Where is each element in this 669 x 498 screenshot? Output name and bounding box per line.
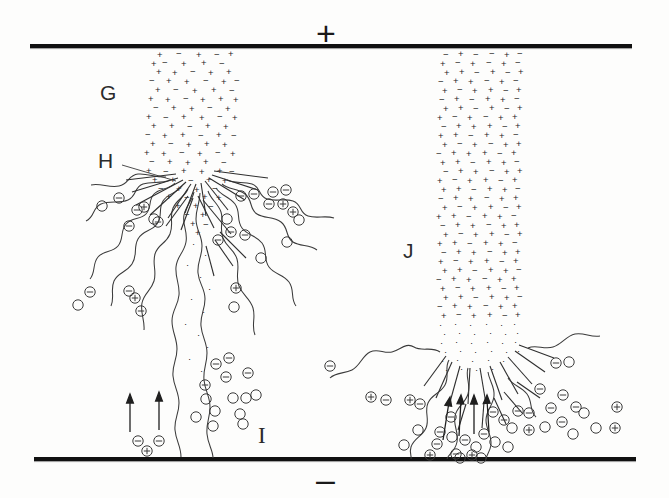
svg-text:·: · xyxy=(485,318,488,329)
svg-text:−: − xyxy=(473,292,479,303)
svg-text:·: · xyxy=(456,354,459,365)
svg-text:+: + xyxy=(233,94,239,105)
svg-text:−: − xyxy=(190,66,196,77)
svg-text:−: − xyxy=(187,121,193,132)
svg-text:·: · xyxy=(504,328,507,339)
svg-text:+: + xyxy=(189,103,195,114)
svg-text:−: − xyxy=(517,291,523,302)
svg-text:+: + xyxy=(201,57,207,68)
svg-text:+: + xyxy=(458,291,464,302)
svg-text:−: − xyxy=(504,103,510,114)
svg-text:+: + xyxy=(230,148,236,159)
svg-text:+: + xyxy=(459,66,465,77)
svg-text:·: · xyxy=(186,259,189,270)
svg-text:+: + xyxy=(184,76,190,87)
svg-text:+: + xyxy=(489,102,495,113)
svg-text:−: − xyxy=(203,75,209,86)
svg-text:·: · xyxy=(208,283,211,294)
svg-text:·: · xyxy=(490,345,493,356)
svg-text:−: − xyxy=(443,166,449,177)
svg-text:−: − xyxy=(473,103,479,114)
svg-text:+: + xyxy=(205,120,211,131)
label-g: G xyxy=(100,82,117,103)
svg-text:·: · xyxy=(469,319,472,330)
svg-text:−: − xyxy=(168,138,174,149)
svg-text:−: − xyxy=(173,84,179,95)
svg-text:+: + xyxy=(156,66,162,77)
svg-text:+: + xyxy=(228,48,234,59)
svg-text:−: − xyxy=(207,102,213,113)
svg-text:·: · xyxy=(471,355,474,366)
svg-text:−: − xyxy=(234,75,240,86)
svg-text:·: · xyxy=(444,346,447,357)
label-h: H xyxy=(98,150,114,171)
svg-text:+: + xyxy=(457,264,463,275)
svg-text:−: − xyxy=(203,219,209,230)
svg-text:−: − xyxy=(472,265,478,276)
svg-text:·: · xyxy=(458,327,461,338)
svg-text:−: − xyxy=(153,102,159,113)
svg-text:−: − xyxy=(457,138,463,149)
svg-text:+: + xyxy=(443,229,449,240)
svg-text:+: + xyxy=(225,103,231,114)
svg-text:+: + xyxy=(517,102,523,113)
svg-text:·: · xyxy=(487,354,490,365)
svg-text:+: + xyxy=(199,166,205,177)
svg-text:+: + xyxy=(444,67,450,78)
svg-text:·: · xyxy=(500,319,503,330)
svg-text:+: + xyxy=(516,138,522,149)
svg-text:+: + xyxy=(181,165,187,176)
label-i: I xyxy=(258,424,266,447)
svg-text:+: + xyxy=(490,66,496,77)
electrode-bottom xyxy=(34,459,636,462)
svg-text:+: + xyxy=(517,165,523,176)
svg-text:+: + xyxy=(489,291,495,302)
svg-text:+: + xyxy=(472,139,478,150)
svg-text:·: · xyxy=(473,328,476,339)
svg-text:+: + xyxy=(442,202,448,213)
svg-text:+: + xyxy=(473,229,479,240)
svg-text:−: − xyxy=(503,202,509,213)
svg-text:−: − xyxy=(162,57,168,68)
label-j: J xyxy=(403,240,414,261)
svg-text:+: + xyxy=(443,103,449,114)
svg-text:·: · xyxy=(197,329,200,340)
svg-text:+: + xyxy=(171,102,177,113)
svg-text:+: + xyxy=(166,75,172,86)
svg-text:+: + xyxy=(458,102,464,113)
svg-text:·: · xyxy=(190,293,193,304)
svg-text:−: − xyxy=(229,166,235,177)
svg-text:+: + xyxy=(516,201,522,212)
svg-text:·: · xyxy=(188,353,191,364)
svg-text:·: · xyxy=(459,345,462,356)
svg-text:−: − xyxy=(457,201,463,212)
svg-text:+: + xyxy=(503,139,509,150)
svg-text:+: + xyxy=(222,139,228,150)
svg-text:+: + xyxy=(458,165,464,176)
polarity-positive-symbol: + xyxy=(316,16,336,50)
svg-text:·: · xyxy=(184,318,187,329)
svg-text:+: + xyxy=(517,228,523,239)
left-jet-charge-column: +−+−+ −++−+ ++−++ −++−+− +−++− ++−+++ −+… xyxy=(144,48,240,376)
svg-text:+: + xyxy=(472,202,478,213)
svg-text:−: − xyxy=(504,229,510,240)
svg-text:+: + xyxy=(488,201,494,212)
svg-text:·: · xyxy=(505,346,508,357)
svg-text:−: − xyxy=(488,138,494,149)
svg-text:−: − xyxy=(489,165,495,176)
svg-text:+: + xyxy=(192,85,198,96)
svg-text:·: · xyxy=(192,238,195,249)
svg-text:+: + xyxy=(503,265,509,276)
svg-text:−: − xyxy=(474,67,480,78)
svg-text:·: · xyxy=(455,336,458,347)
figure-canvas: +−+−+ −++−+ ++−++ −++−+− +−++− ++−+++ −+… xyxy=(0,0,669,498)
svg-text:·: · xyxy=(474,346,477,357)
svg-text:+: + xyxy=(442,265,448,276)
svg-text:·: · xyxy=(470,337,473,348)
svg-text:·: · xyxy=(475,364,478,375)
svg-text:+: + xyxy=(223,121,229,132)
svg-text:+: + xyxy=(504,292,510,303)
svg-text:+: + xyxy=(204,138,210,149)
svg-text:+: + xyxy=(504,166,510,177)
svg-text:·: · xyxy=(454,318,457,329)
